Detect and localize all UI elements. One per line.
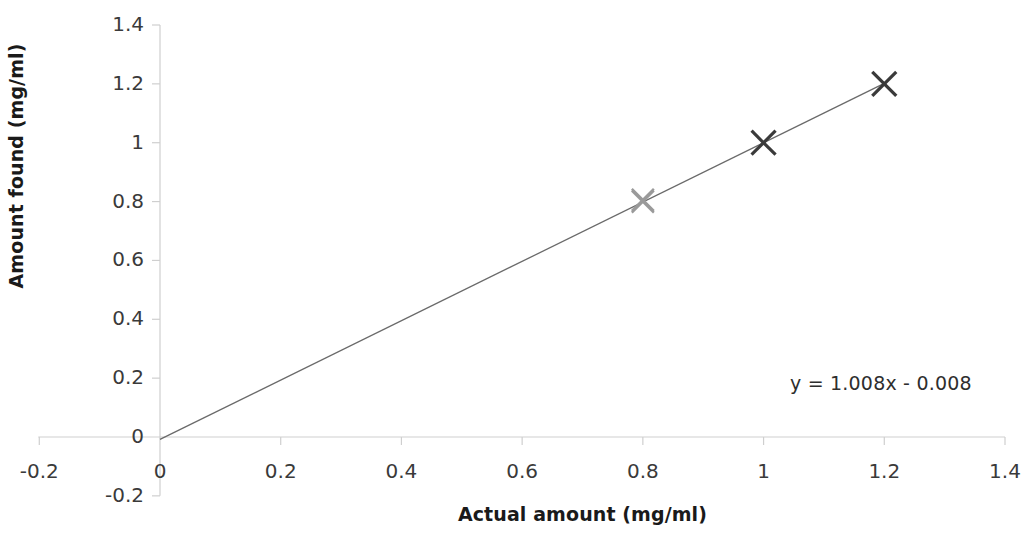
trendline-equation-label: y = 1.008x - 0.008	[790, 372, 972, 394]
y-axis-tick-label: 0.2	[84, 365, 144, 389]
x-axis-tick-label: 1	[729, 459, 799, 483]
x-axis-tick-label: 1.2	[849, 459, 919, 483]
x-axis-tick-label: -0.2	[4, 459, 74, 483]
x-axis-tick-label: 0.2	[246, 459, 316, 483]
data-point-marker	[872, 72, 896, 96]
y-axis-tick-label: 1	[84, 130, 144, 154]
data-point-marker	[632, 191, 654, 213]
x-axis-tick-label: 0	[125, 459, 195, 483]
y-axis-tick-label: 0.6	[84, 247, 144, 271]
y-axis-tick-label: -0.2	[84, 483, 144, 507]
x-axis-tick-label: 0.4	[366, 459, 436, 483]
y-axis-title: Amount found (mg/ml)	[5, 16, 27, 316]
x-axis-tick-label: 1.4	[970, 459, 1024, 483]
plot-area	[0, 0, 1024, 535]
data-series-group	[160, 72, 896, 439]
chart-container: -0.200.20.40.60.811.21.4 -0.200.20.40.60…	[0, 0, 1024, 535]
x-axis-title: Actual amount (mg/ml)	[160, 503, 1005, 525]
data-point-marker	[632, 189, 654, 211]
y-axis-tick-label: 1.4	[84, 12, 144, 36]
y-axis-tick-label: 0.4	[84, 306, 144, 330]
y-axis-tick-label: 0.8	[84, 189, 144, 213]
y-axis-tick-label: 1.2	[84, 71, 144, 95]
x-axis-tick-label: 0.8	[608, 459, 678, 483]
x-axis-tick-label: 0.6	[487, 459, 557, 483]
trendline	[160, 83, 884, 439]
y-axis-tick-label: 0	[84, 424, 144, 448]
data-point-marker	[752, 131, 776, 155]
